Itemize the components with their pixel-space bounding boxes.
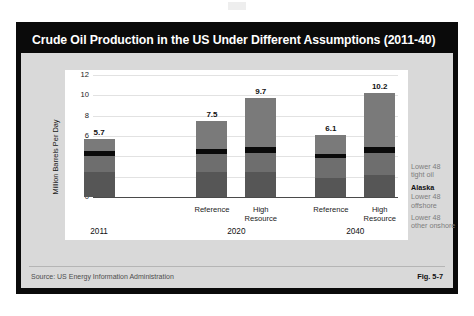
chart-legend: Lower 48 tight oilAlaskaLower 48 offshor… bbox=[411, 163, 457, 235]
bar-segment-other-onshore bbox=[315, 178, 346, 197]
bar-2011: 5.7 bbox=[84, 139, 115, 197]
bar-2040-reference: 6.1 bbox=[315, 135, 346, 197]
legend-entry: Lower 48 offshore bbox=[411, 193, 457, 210]
footer-divider bbox=[29, 266, 445, 267]
y-axis-tick-label: 12 bbox=[81, 71, 89, 79]
bar-segment-tight-oil bbox=[84, 139, 115, 151]
x-axis-line bbox=[93, 197, 398, 198]
bar-value-label: 7.5 bbox=[206, 110, 217, 119]
bar-value-label: 9.7 bbox=[255, 87, 266, 96]
bar-value-label: 10.2 bbox=[372, 82, 388, 91]
bar-2020-high-resource: 9.7 bbox=[245, 98, 276, 197]
x-axis-scenario-label: High Resource bbox=[354, 205, 406, 223]
bar-segment-tight-oil bbox=[364, 93, 395, 147]
bar-segment-tight-oil bbox=[196, 121, 227, 149]
x-axis-group-label-2040: 2040 bbox=[329, 227, 381, 236]
figure-frame: Crude Oil Production in the US Under Dif… bbox=[16, 22, 458, 294]
bar-2040-high-resource: 10.2 bbox=[364, 93, 395, 197]
bar-segment-offshore bbox=[315, 158, 346, 177]
source-text: Source: US Energy Information Administra… bbox=[31, 273, 174, 280]
bar-segment-other-onshore bbox=[84, 172, 115, 197]
bar-segment-offshore bbox=[364, 153, 395, 174]
x-axis-group-label-2011: 2011 bbox=[73, 227, 125, 236]
bar-value-label: 6.1 bbox=[325, 124, 336, 133]
legend-entry: Lower 48 other onshore bbox=[411, 214, 457, 231]
figure-body: Million Barrels Per Day 0246810125.77.59… bbox=[21, 53, 453, 288]
figure-number: Fig. 5-7 bbox=[417, 272, 443, 281]
x-axis-scenario-label: Reference bbox=[305, 205, 357, 214]
y-axis-tick-label: 8 bbox=[85, 112, 89, 120]
bar-segment-other-onshore bbox=[196, 172, 227, 197]
gridline bbox=[93, 75, 398, 76]
gridline bbox=[93, 95, 398, 96]
chart-plot-area: 0246810125.77.59.76.110.2 bbox=[93, 75, 398, 197]
legend-entry: Lower 48 tight oil bbox=[411, 163, 457, 180]
bar-segment-offshore bbox=[245, 153, 276, 171]
bar-segment-other-onshore bbox=[364, 175, 395, 197]
y-axis-title: Million Barrels Per Day bbox=[51, 102, 60, 212]
chart-plot-panel: Million Barrels Per Day 0246810125.77.59… bbox=[65, 70, 408, 240]
bar-segment-offshore bbox=[84, 156, 115, 171]
figure-footer: Source: US Energy Information Administra… bbox=[21, 266, 453, 288]
bar-segment-offshore bbox=[196, 154, 227, 171]
figure-title-bar: Crude Oil Production in the US Under Dif… bbox=[21, 27, 453, 53]
scan-artifact bbox=[228, 2, 246, 10]
bar-segment-other-onshore bbox=[245, 172, 276, 197]
bar-2020-reference: 7.5 bbox=[196, 121, 227, 197]
x-axis-scenario-label: High Resource bbox=[235, 205, 287, 223]
page-title: Crude Oil Production in the US Under Dif… bbox=[32, 33, 435, 47]
bar-value-label: 5.7 bbox=[94, 128, 105, 137]
bar-segment-tight-oil bbox=[245, 98, 276, 147]
x-axis-group-label-2020: 2020 bbox=[210, 227, 262, 236]
bar-segment-tight-oil bbox=[315, 135, 346, 154]
x-axis-scenario-label: Reference bbox=[186, 205, 238, 214]
legend-entry: Alaska bbox=[411, 184, 457, 192]
y-axis-tick-label: 10 bbox=[81, 92, 89, 100]
